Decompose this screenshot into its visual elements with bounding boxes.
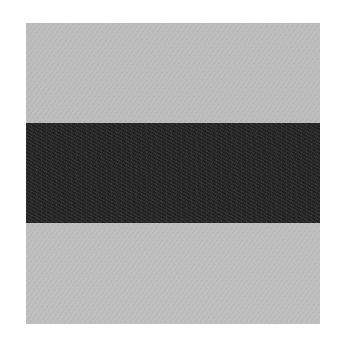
bottom-light-gray-band — [26, 223, 320, 324]
texture-overlay — [26, 223, 320, 324]
middle-dark-band — [26, 123, 320, 223]
texture-overlay — [26, 123, 320, 223]
texture-overlay — [26, 23, 320, 123]
image-canvas — [0, 0, 348, 345]
textured-swatch — [26, 23, 320, 324]
top-light-gray-band — [26, 23, 320, 123]
